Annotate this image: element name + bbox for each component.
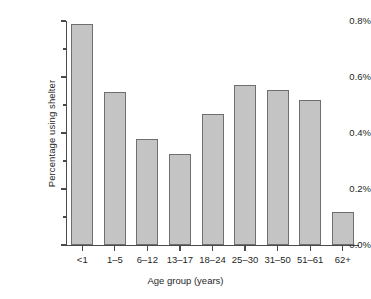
bar: [71, 24, 93, 245]
x-axis-tick: [244, 246, 245, 251]
bar-chart-figure: Percentage using shelter 0.0%0.2%0.4%0.6…: [0, 0, 371, 299]
x-axis-tick: [212, 246, 213, 251]
x-axis-tick-label: 1–5: [107, 254, 123, 265]
y-axis-tick-label: 0.4%: [319, 127, 371, 138]
y-axis-title: Percentage using shelter: [46, 34, 57, 234]
y-axis-minor-tick: [63, 104, 67, 105]
bar: [136, 139, 158, 245]
x-axis-tick-label: 25–30: [232, 254, 258, 265]
x-axis-tick-label: 18–24: [199, 254, 225, 265]
y-axis-minor-tick: [63, 160, 67, 161]
y-axis-tick-label: 0.6%: [319, 71, 371, 82]
x-axis-tick: [147, 246, 148, 251]
y-axis-tick: [61, 244, 66, 245]
y-axis-tick: [61, 20, 66, 21]
caption-artifact: [0, 289, 371, 299]
y-axis-tick-label: 0.8%: [319, 15, 371, 26]
bar: [332, 212, 354, 245]
x-axis-tick: [179, 246, 180, 251]
y-axis-minor-tick: [63, 48, 67, 49]
x-axis-tick-label: 13–17: [167, 254, 193, 265]
x-axis-tick: [277, 246, 278, 251]
x-axis-tick-label: 31–50: [264, 254, 290, 265]
bar: [234, 85, 256, 245]
y-axis-line: [66, 21, 67, 245]
y-axis-minor-tick: [63, 216, 67, 217]
x-axis-tick: [310, 246, 311, 251]
bar: [169, 154, 191, 245]
bar: [104, 92, 126, 245]
x-axis-tick: [342, 246, 343, 251]
y-axis-tick: [61, 188, 66, 189]
bar: [202, 114, 224, 245]
y-axis-tick-label: 0.2%: [319, 183, 371, 194]
x-axis-tick-label: <1: [77, 254, 88, 265]
y-axis-tick: [61, 132, 66, 133]
x-axis-tick-label: 62+: [335, 254, 351, 265]
x-axis-tick: [114, 246, 115, 251]
bar: [299, 100, 321, 245]
x-axis-tick-label: 51–61: [297, 254, 323, 265]
y-axis-tick: [61, 76, 66, 77]
x-axis-tick: [82, 246, 83, 251]
bar: [267, 90, 289, 245]
x-axis-title: Age group (years): [0, 275, 371, 286]
x-axis-tick-label: 6–12: [137, 254, 158, 265]
